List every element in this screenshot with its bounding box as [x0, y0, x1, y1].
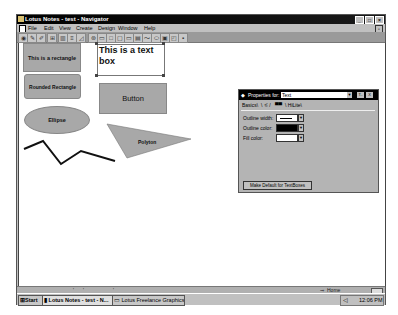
toolbar: ◉ ✎ ✐ ⊞ ▥ ≡ ◿ ⊛ ▭ □ ▢ ▭ ▤ 〜 ⬭ ▣ ◰ ▪	[17, 32, 385, 43]
polyline-shape[interactable]	[24, 141, 115, 164]
tab-divider	[241, 110, 375, 111]
task-freelance-graphics[interactable]: ▭ Lotus Freelance Graphics -	[112, 295, 185, 306]
outline-color-label: Outline color:	[243, 125, 272, 131]
menu-edit[interactable]: Edit	[44, 24, 53, 32]
fill-color-dropdown[interactable]: ▼	[298, 134, 304, 142]
speaker-icon[interactable]: ◁	[343, 296, 348, 305]
start-label: Start	[25, 297, 38, 303]
close-button[interactable]: ×	[375, 16, 384, 24]
object-selector[interactable]: Text	[281, 92, 348, 98]
title-bar: Lotus Notes - test - Navigator _ □ ×	[17, 15, 385, 24]
menu-help[interactable]: Help	[144, 24, 155, 32]
menu-file[interactable]: File	[28, 24, 37, 32]
menu-create[interactable]: Create	[76, 24, 93, 32]
window-title: Lotus Notes - test - Navigator	[25, 15, 109, 24]
outline-color-dropdown[interactable]: ▼	[298, 124, 304, 132]
minimize-button[interactable]: _	[355, 16, 364, 24]
navigator-canvas[interactable]: This is a rectangle Rounded Rectangle Th…	[18, 43, 386, 286]
menu-window[interactable]: Window	[118, 24, 138, 32]
outline-color-swatch[interactable]	[276, 124, 298, 132]
fill-color-label: Fill color:	[243, 135, 263, 141]
properties-title: Properties for:	[248, 90, 279, 100]
task-label: Lotus Freelance Graphics -	[122, 297, 185, 303]
outline-width-dropdown[interactable]: ▼	[298, 114, 304, 122]
tab-hilite[interactable]: \ HiLite\	[285, 101, 302, 109]
menu-bar: File Edit View Create Design Window Help…	[17, 24, 385, 32]
freelance-icon: ▭	[114, 297, 122, 303]
lotus-notes-app-icon[interactable]	[18, 16, 24, 22]
close-properties-button[interactable]: X	[366, 92, 373, 98]
start-button[interactable]: ⊞Start	[18, 295, 43, 306]
pencil-icon[interactable]: ✐	[36, 33, 46, 43]
task-label: Lotus Notes - test - N...	[49, 297, 109, 303]
tab-basics[interactable]: Basics\	[242, 101, 258, 109]
grid-icon[interactable]: ⊞	[47, 33, 57, 43]
taskbar: ⊞Start ▮ Lotus Notes - test - N... ▭ Lot…	[17, 293, 385, 305]
lotus-notes-window: Lotus Notes - test - Navigator _ □ × Fil…	[16, 14, 386, 305]
properties-diamond-icon: ◆	[241, 90, 245, 100]
clock[interactable]: 12:06 PM	[359, 296, 383, 305]
make-default-button[interactable]: Make Default for TextBoxes	[243, 181, 312, 190]
fill-color-swatch[interactable]	[276, 134, 298, 142]
chevron-down-icon[interactable]: ▼	[347, 92, 352, 98]
help-button[interactable]: T..	[357, 92, 364, 98]
tab-fill[interactable]: ▀▀	[275, 101, 282, 109]
maximize-button[interactable]: □	[365, 16, 374, 24]
task-lotus-notes[interactable]: ▮ Lotus Notes - test - N...	[42, 295, 113, 306]
properties-title-bar[interactable]: ◆ Properties for: Text ▼ T.. X	[239, 90, 378, 100]
polygon-label: Polyton	[138, 139, 156, 145]
properties-box: ◆ Properties for: Text ▼ T.. X Basics\ \…	[238, 89, 379, 193]
properties-icon[interactable]: ▪	[178, 33, 188, 43]
tab-font[interactable]: \ ⚟ /	[261, 101, 271, 109]
chart-icon[interactable]: ◿	[76, 33, 86, 43]
system-tray: ◁ 12:06 PM	[340, 295, 384, 306]
menu-view[interactable]: View	[59, 24, 71, 32]
outline-width-field[interactable]	[276, 114, 298, 122]
menu-design[interactable]: Design	[98, 24, 115, 32]
outline-width-label: Outline width:	[243, 115, 273, 121]
